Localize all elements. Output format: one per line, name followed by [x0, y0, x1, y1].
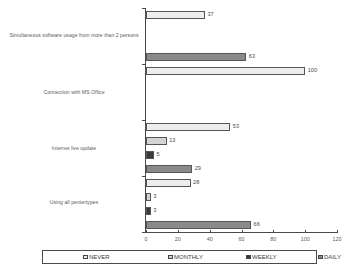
category-label-0: Simultaneous software usage from more th…	[3, 32, 145, 40]
x-tick-mark	[178, 230, 179, 233]
legend-item-monthly[interactable]: MONTHLY	[168, 254, 203, 260]
x-tick-label: 60	[239, 236, 245, 242]
bar-never-2	[146, 123, 230, 132]
y-tick-mark	[142, 64, 145, 65]
legend-label: WEEKLY	[252, 254, 277, 260]
legend-item-never[interactable]: NEVER	[83, 254, 110, 260]
bar-value-label: 37	[207, 12, 213, 18]
legend-swatch-icon	[246, 255, 251, 260]
bar-daily-2	[146, 165, 192, 174]
y-tick-mark	[142, 232, 145, 233]
bar-never-3	[146, 179, 191, 188]
category-label-3: Using all pentertypes	[3, 199, 145, 207]
bar-monthly-2	[146, 137, 167, 146]
x-tick-mark	[210, 230, 211, 233]
bar-daily-3	[146, 221, 251, 230]
x-tick-mark	[305, 230, 306, 233]
bar-value-label: 28	[193, 180, 199, 186]
bar-monthly-3	[146, 193, 151, 202]
legend-label: MONTHLY	[174, 254, 203, 260]
x-tick-label: 40	[207, 236, 213, 242]
category-label-2: Internet live update	[3, 145, 145, 153]
x-tick-mark	[273, 230, 274, 233]
x-tick-label: 100	[301, 236, 310, 242]
x-tick-mark	[242, 230, 243, 233]
bar-value-label: 29	[195, 166, 201, 172]
bar-value-label: 3	[153, 208, 156, 214]
bar-value-label: 13	[169, 138, 175, 144]
legend-item-weekly[interactable]: WEEKLY	[246, 254, 277, 260]
bar-chart: Simultaneous software usage from more th…	[0, 0, 345, 245]
legend-swatch-icon	[318, 255, 323, 260]
bar-value-label: 66	[254, 222, 260, 228]
bar-never-1	[146, 67, 305, 76]
y-tick-mark	[142, 8, 145, 9]
x-tick-label: 20	[175, 236, 181, 242]
y-tick-mark	[142, 120, 145, 121]
bar-daily-0	[146, 53, 246, 62]
bar-never-0	[146, 11, 205, 20]
x-tick-mark	[337, 230, 338, 233]
x-tick-label: 80	[270, 236, 276, 242]
legend-swatch-icon	[83, 255, 88, 260]
legend-item-daily[interactable]: DAILY	[318, 254, 341, 260]
x-tick-label: 0	[145, 236, 148, 242]
bar-value-label: 100	[308, 68, 317, 74]
bar-weekly-3	[146, 207, 151, 216]
bar-weekly-2	[146, 151, 154, 160]
x-tick-label: 120	[333, 236, 342, 242]
bar-value-label: 5	[156, 152, 159, 158]
y-tick-mark	[142, 176, 145, 177]
bar-value-label: 3	[153, 194, 156, 200]
legend-swatch-icon	[168, 255, 173, 260]
bar-value-label: 63	[249, 54, 255, 60]
legend-label: NEVER	[89, 254, 110, 260]
x-tick-mark	[146, 230, 147, 233]
category-label-1: Connection with MS Office	[3, 89, 145, 97]
bar-value-label: 53	[233, 124, 239, 130]
chart-legend: NEVERMONTHLYWEEKLYDAILY	[42, 250, 317, 264]
legend-label: DAILY	[324, 254, 341, 260]
